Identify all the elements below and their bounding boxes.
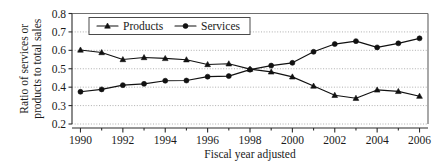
y-axis-title-line-1: Ratio of services or [18, 24, 30, 114]
x-axis: 199019921994199619982000200220042006 [69, 128, 431, 146]
y-axis-title-line-2: products to total sales [31, 18, 44, 118]
y-axis-tick-label: 0.2 [52, 118, 67, 130]
chart-figure: 0.20.30.40.50.60.70.81990199219941996199… [0, 0, 436, 166]
y-axis-tick-label: 0.5 [52, 63, 67, 75]
series-services [78, 36, 422, 94]
data-point-marker [78, 47, 84, 52]
series-line-services [80, 38, 419, 91]
x-axis-tick-label: 1996 [196, 134, 219, 146]
y-axis: 0.20.30.40.50.60.70.8 [52, 8, 72, 131]
legend-label-services: Services [201, 20, 240, 32]
data-point-marker [184, 78, 189, 83]
x-axis-tick-label: 2004 [366, 134, 389, 146]
data-point-marker [269, 63, 274, 68]
x-axis-tick-label: 1990 [69, 134, 92, 146]
y-axis-tick-label: 0.7 [52, 26, 67, 38]
data-point-marker [311, 49, 316, 54]
x-axis-tick-label: 1992 [111, 134, 134, 146]
legend: ProductsServices [89, 18, 250, 35]
y-axis-tick-label: 0.4 [52, 81, 67, 93]
data-point-marker [99, 87, 104, 92]
y-axis-tick-label: 0.6 [52, 44, 67, 56]
x-axis-tick-label: 1994 [154, 134, 177, 146]
data-point-marker [248, 67, 253, 72]
x-axis-tick-label: 2000 [281, 134, 304, 146]
data-point-marker [142, 81, 147, 86]
data-point-marker [183, 24, 188, 29]
x-axis-tick-label: 1998 [239, 134, 262, 146]
data-point-marker [375, 45, 380, 50]
data-point-marker [396, 41, 401, 46]
data-point-marker [205, 74, 210, 79]
legend-label-products: Products [123, 20, 164, 32]
data-point-marker [353, 39, 358, 44]
data-point-marker [417, 36, 422, 41]
data-point-marker [226, 74, 231, 79]
x-axis-tick-label: 2002 [323, 134, 346, 146]
x-axis-tick-label: 2006 [408, 134, 431, 146]
series-products [78, 47, 423, 100]
data-point-marker [332, 42, 337, 47]
data-point-marker [163, 78, 168, 83]
y-axis-tick-label: 0.3 [52, 100, 67, 112]
data-point-marker [120, 83, 125, 88]
data-point-marker [290, 60, 295, 65]
data-point-marker [78, 89, 83, 94]
line-chart: 0.20.30.40.50.60.70.81990199219941996199… [0, 0, 436, 166]
y-axis-tick-label: 0.8 [52, 8, 67, 20]
series-line-products [80, 50, 419, 98]
x-axis-title: Fiscal year adjusted [204, 148, 296, 161]
